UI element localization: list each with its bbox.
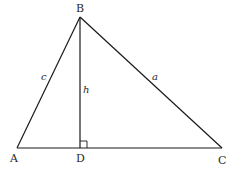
- side-label-c: c: [41, 71, 47, 82]
- vertex-label-c: C: [218, 154, 226, 167]
- triangle-svg: B A D C c h a: [0, 0, 244, 170]
- vertex-label-b: B: [76, 2, 84, 15]
- right-angle-marker: [80, 141, 87, 148]
- side-label-a: a: [152, 71, 158, 82]
- triangle-diagram: B A D C c h a: [0, 0, 244, 170]
- vertex-label-a: A: [9, 152, 19, 165]
- altitude-label-h: h: [83, 84, 89, 95]
- vertex-label-d: D: [76, 152, 85, 165]
- side-a-line: [80, 17, 222, 148]
- side-c-line: [17, 17, 80, 148]
